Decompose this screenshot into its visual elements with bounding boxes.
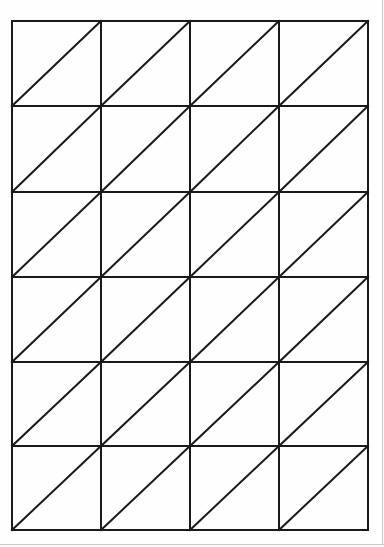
cell-diagonal: [101, 446, 190, 530]
cell-diagonal: [279, 192, 368, 277]
page-edge-right: [382, 0, 383, 545]
cell-diagonal: [101, 106, 190, 192]
cell-diagonal: [12, 192, 101, 277]
cell-diagonal: [279, 446, 368, 530]
cell-diagonal: [12, 106, 101, 192]
cell-diagonal: [12, 446, 101, 530]
cell-diagonal: [190, 446, 279, 530]
cell-diagonal: [190, 362, 279, 446]
cell-diagonal: [101, 192, 190, 277]
cell-diagonal: [101, 362, 190, 446]
cell-diagonal: [190, 277, 279, 362]
cell-diagonal: [279, 277, 368, 362]
cell-diagonal: [279, 362, 368, 446]
cell-diagonal: [190, 106, 279, 192]
worksheet-page: [0, 0, 384, 547]
cell-diagonal: [101, 21, 190, 106]
cell-diagonal: [12, 277, 101, 362]
cell-diagonal: [12, 21, 101, 106]
cell-diagonal: [279, 21, 368, 106]
cell-diagonal: [12, 362, 101, 446]
lattice-grid: [0, 0, 384, 547]
cell-diagonal: [101, 277, 190, 362]
cell-diagonal: [190, 192, 279, 277]
page-edge-bottom: [0, 544, 384, 545]
cell-diagonal: [190, 21, 279, 106]
cell-diagonal: [279, 106, 368, 192]
